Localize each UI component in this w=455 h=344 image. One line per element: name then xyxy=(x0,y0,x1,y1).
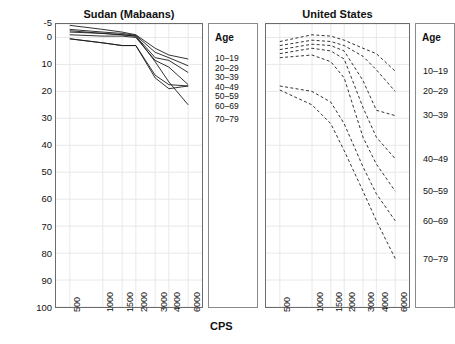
x-tick-label: 6000 xyxy=(193,292,202,312)
y-axis-ticks: -50102030405060708090100 xyxy=(18,0,52,344)
x-tick-label: 1500 xyxy=(335,292,344,312)
y-tick-label: 10 xyxy=(41,59,52,69)
y-tick-label: 90 xyxy=(41,276,52,286)
panel-title-sudan: Sudan (Mabaans) xyxy=(55,8,203,20)
series-line xyxy=(70,32,188,72)
x-tick-label: 4000 xyxy=(173,292,182,312)
y-tick-label: 0 xyxy=(47,32,52,42)
y-tick-label: -5 xyxy=(44,18,52,28)
x-tick-label: 4000 xyxy=(381,292,390,312)
y-tick-label: 20 xyxy=(41,86,52,96)
y-tick-label: 40 xyxy=(41,140,52,150)
legend-sudan: Age 10–1920–2930–3940–4950–5960–6970–79 xyxy=(208,23,258,308)
legend-item: 60–69 xyxy=(215,102,239,111)
series-line xyxy=(70,35,188,85)
legend-item: 50–59 xyxy=(423,187,448,196)
x-tick-label: 2000 xyxy=(348,292,357,312)
y-tick-label: 70 xyxy=(41,222,52,232)
legend-item: 10–19 xyxy=(423,67,448,76)
series-line xyxy=(280,40,395,91)
legend-item: 40–49 xyxy=(423,155,448,164)
series-line xyxy=(280,90,395,258)
x-tick-label: 3000 xyxy=(367,292,376,312)
series-line xyxy=(70,29,188,65)
x-tick-label: 3000 xyxy=(160,292,169,312)
y-tick-label: 50 xyxy=(41,167,52,177)
y-tick-label: 80 xyxy=(41,249,52,259)
legend-item: 30–39 xyxy=(423,111,448,120)
panel-title-united-states: United States xyxy=(265,8,410,20)
x-tick-label: 1000 xyxy=(316,292,325,312)
legend-united-states: Age 10–1920–2930–3940–4950–5960–6970–79 xyxy=(415,23,455,308)
series-line xyxy=(70,39,188,89)
legend-title-sudan: Age xyxy=(215,32,234,43)
plot-area-united-states xyxy=(265,23,410,308)
hearing-loss-figure: Sudan (Mabaans) United States Hearing lo… xyxy=(0,0,455,344)
y-tick-label: 60 xyxy=(41,194,52,204)
x-tick-label: 500 xyxy=(73,297,82,312)
legend-item: 20–29 xyxy=(215,64,239,73)
x-axis-label: CPS xyxy=(210,320,233,332)
y-tick-label: 100 xyxy=(36,303,52,313)
legend-item: 40–49 xyxy=(215,83,239,92)
legend-title-united-states: Age xyxy=(422,32,441,43)
y-tick-label: 30 xyxy=(41,113,52,123)
x-tick-label: 1500 xyxy=(126,292,135,312)
sudan-lines xyxy=(56,24,202,307)
x-tick-label: 6000 xyxy=(400,292,409,312)
legend-item: 30–39 xyxy=(215,73,239,82)
legend-item: 10–19 xyxy=(215,54,239,63)
legend-item: 70–79 xyxy=(215,115,239,124)
legend-item: 70–79 xyxy=(423,255,448,264)
series-line xyxy=(280,35,395,71)
series-line xyxy=(280,55,395,191)
legend-item: 60–69 xyxy=(423,217,448,226)
x-tick-label: 1000 xyxy=(106,292,115,312)
series-line xyxy=(70,31,188,105)
plot-area-sudan xyxy=(55,23,203,308)
x-tick-label: 2000 xyxy=(140,292,149,312)
united-states-lines xyxy=(266,24,409,307)
series-line xyxy=(280,86,395,221)
legend-item: 20–29 xyxy=(423,87,448,96)
x-tick-label: 500 xyxy=(283,297,292,312)
legend-item: 50–59 xyxy=(215,92,239,101)
